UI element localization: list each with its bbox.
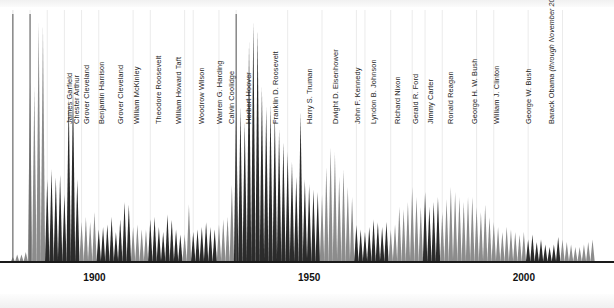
spike xyxy=(294,177,298,262)
spike xyxy=(560,240,564,263)
spike xyxy=(170,220,174,263)
spike xyxy=(401,210,405,263)
spike xyxy=(251,22,255,262)
spike xyxy=(135,225,139,263)
spike xyxy=(509,230,513,263)
spike xyxy=(367,227,371,262)
spike xyxy=(24,252,28,262)
spike xyxy=(547,247,551,262)
spike xyxy=(350,197,354,262)
spike xyxy=(109,217,113,262)
spike xyxy=(152,217,156,262)
spike xyxy=(534,242,538,262)
spike xyxy=(393,225,397,263)
spike xyxy=(200,227,204,262)
spike xyxy=(217,225,221,263)
spike xyxy=(148,220,152,263)
spike xyxy=(380,227,384,262)
spike xyxy=(32,87,36,262)
spike xyxy=(88,222,92,262)
spike xyxy=(195,230,199,263)
spike xyxy=(466,197,470,262)
spike xyxy=(453,192,457,262)
spike xyxy=(71,85,75,263)
spike xyxy=(311,190,315,263)
timeline-plot-area xyxy=(0,0,614,308)
spike xyxy=(54,177,58,262)
spike xyxy=(565,242,569,262)
spike xyxy=(45,180,49,263)
spike xyxy=(371,220,375,263)
spike xyxy=(577,247,581,262)
spike xyxy=(101,227,105,262)
spike xyxy=(208,227,212,262)
spike xyxy=(423,192,427,262)
spike xyxy=(161,232,165,262)
presidential-timeline-svg xyxy=(0,0,614,308)
spike xyxy=(346,187,350,262)
spike xyxy=(316,192,320,262)
spike xyxy=(504,227,508,262)
spike xyxy=(157,227,161,262)
spike xyxy=(487,217,491,262)
spike xyxy=(333,152,337,262)
spike xyxy=(320,195,324,263)
spike xyxy=(303,180,307,263)
chart-figure: James GarfieldChester ArthurGrover Cleve… xyxy=(0,0,614,308)
spike xyxy=(36,22,40,262)
spike xyxy=(384,222,388,262)
spike xyxy=(277,130,281,263)
spike xyxy=(75,180,79,263)
spike xyxy=(139,230,143,263)
spike xyxy=(427,207,431,262)
spike xyxy=(79,222,83,262)
spike xyxy=(114,232,118,262)
spike xyxy=(144,230,148,263)
spike xyxy=(15,255,19,263)
spike xyxy=(337,177,341,262)
spike xyxy=(530,235,534,263)
spike xyxy=(243,122,247,262)
spike xyxy=(590,240,594,263)
spike xyxy=(552,245,556,263)
spike xyxy=(406,202,410,262)
spike xyxy=(582,245,586,263)
spike xyxy=(174,230,178,263)
spike xyxy=(247,42,251,262)
spike xyxy=(41,25,45,263)
spike xyxy=(255,30,259,263)
spike xyxy=(66,97,70,262)
spike xyxy=(49,170,53,263)
spike xyxy=(221,220,225,263)
spike xyxy=(118,220,122,263)
spike xyxy=(230,185,234,263)
spike xyxy=(264,107,268,262)
spike xyxy=(298,112,302,262)
spike xyxy=(260,87,264,262)
spike xyxy=(341,170,345,263)
spike xyxy=(281,142,285,262)
spike xyxy=(268,105,272,263)
spike xyxy=(414,197,418,262)
spike xyxy=(127,205,131,263)
spike xyxy=(58,175,62,263)
spike xyxy=(517,235,521,263)
spike xyxy=(19,255,23,263)
spike xyxy=(419,207,423,262)
axis-tick-label: 1950 xyxy=(298,272,320,283)
spike xyxy=(569,245,573,263)
spike xyxy=(225,217,229,262)
spike xyxy=(84,217,88,262)
spike xyxy=(543,245,547,263)
spike xyxy=(290,162,294,262)
spike xyxy=(105,225,109,263)
spike xyxy=(483,205,487,263)
spike xyxy=(444,200,448,263)
spike xyxy=(363,232,367,262)
spike xyxy=(500,232,504,262)
axis-tick-label: 1900 xyxy=(83,272,105,283)
spike xyxy=(191,232,195,262)
spike xyxy=(285,152,289,262)
spike xyxy=(92,212,96,262)
spike xyxy=(131,227,135,262)
